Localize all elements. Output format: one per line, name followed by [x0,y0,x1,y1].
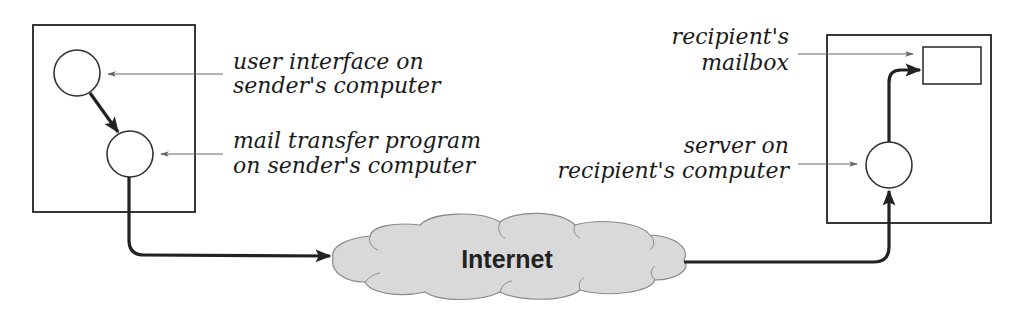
recipient-labels: recipient's mailbox server on recipient'… [558,24,913,183]
internet-label: Internet [461,245,553,273]
recipient-server-node [866,142,912,188]
mailbox-label-line1: recipient's [672,24,789,49]
mta-label-line1: mail transfer program [233,128,481,153]
email-delivery-diagram: user interface on sender's computer mail… [0,0,1019,316]
mta-label-line2: on sender's computer [233,153,476,178]
mail-transfer-program-node [107,131,153,177]
ui-label-line1: user interface on [233,49,424,74]
server-label-line1: server on [684,133,789,158]
sender-to-internet-connection [129,177,330,256]
ui-to-mta-arrow [90,93,118,132]
recipient-computer [827,35,991,223]
sender-computer [33,25,195,212]
recipient-mailbox [923,47,981,84]
internet-cloud: Internet [333,213,686,299]
sender-computer-box [33,25,195,212]
internet-to-recipient-connection [684,191,889,262]
sender-labels: user interface on sender's computer mail… [108,49,481,178]
user-interface-node [54,50,100,96]
server-label-line2: recipient's computer [558,158,791,183]
ui-label-line2: sender's computer [233,73,442,98]
mailbox-label-line2: mailbox [701,50,789,75]
server-to-mailbox-arrow [889,70,920,142]
